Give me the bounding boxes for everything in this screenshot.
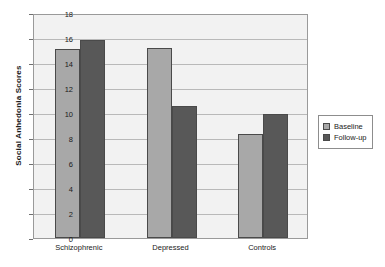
y-tick-mark xyxy=(29,214,33,215)
y-tick-label: 10 xyxy=(55,110,73,119)
y-tick-label: 8 xyxy=(55,135,73,144)
y-tick-mark xyxy=(29,39,33,40)
legend: Baseline Follow-up xyxy=(318,115,373,149)
legend-item-followup[interactable]: Follow-up xyxy=(323,133,367,142)
y-tick-label: 12 xyxy=(55,85,73,94)
legend-item-baseline[interactable]: Baseline xyxy=(323,122,367,131)
y-tick-mark xyxy=(29,239,33,240)
y-tick-mark xyxy=(29,89,33,90)
x-tick-label-controls: Controls xyxy=(248,243,276,252)
y-tick-label: 14 xyxy=(55,60,73,69)
y-tick-mark xyxy=(29,114,33,115)
legend-swatch-followup-icon xyxy=(323,134,330,141)
y-axis-title: Social Anhedonia Scores xyxy=(14,46,23,186)
plot-inner xyxy=(34,15,307,238)
bar-depressed-baseline[interactable] xyxy=(147,48,172,238)
bar-schizophrenic-follow-up[interactable] xyxy=(80,40,105,238)
bar-controls-follow-up[interactable] xyxy=(263,114,288,238)
bar-chart: Social Anhedonia Scores 024681012141618 … xyxy=(0,0,385,267)
gridline xyxy=(34,39,307,40)
legend-label-followup: Follow-up xyxy=(334,133,367,142)
bar-depressed-follow-up[interactable] xyxy=(172,106,197,239)
y-tick-label: 4 xyxy=(55,185,73,194)
y-tick-label: 6 xyxy=(55,160,73,169)
y-tick-mark xyxy=(29,14,33,15)
y-tick-mark xyxy=(29,189,33,190)
y-tick-label: 16 xyxy=(55,35,73,44)
x-tick-label-schizophrenic: Schizophrenic xyxy=(55,243,102,252)
y-tick-label: 2 xyxy=(55,210,73,219)
x-tick-label-depressed: Depressed xyxy=(152,243,188,252)
plot-area xyxy=(33,14,308,239)
y-tick-mark xyxy=(29,139,33,140)
y-tick-label: 18 xyxy=(55,10,73,19)
legend-label-baseline: Baseline xyxy=(334,122,363,131)
y-tick-mark xyxy=(29,164,33,165)
bar-controls-baseline[interactable] xyxy=(238,134,263,238)
legend-swatch-baseline-icon xyxy=(323,123,330,130)
y-tick-mark xyxy=(29,64,33,65)
